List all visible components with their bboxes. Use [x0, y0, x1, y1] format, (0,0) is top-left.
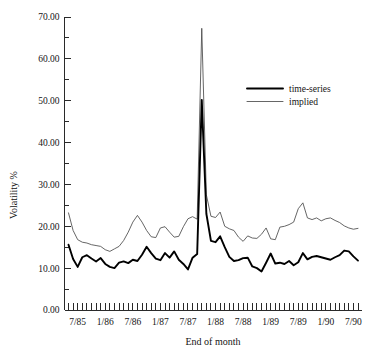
chart-canvas: 0.0010.0020.0030.0040.0050.0060.0070.00 … [0, 0, 376, 361]
y-axis-ticks [65, 17, 72, 310]
volatility-chart: 0.0010.0020.0030.0040.0050.0060.0070.00 … [0, 0, 376, 361]
y-tick-label: 30.00 [38, 180, 60, 190]
y-tick-label: 50.00 [38, 96, 60, 106]
y-tick-label: 20.00 [38, 222, 60, 232]
y-tick-label: 10.00 [38, 264, 60, 274]
x-axis-ticks [69, 303, 359, 310]
x-tick-label: 7/85 [69, 317, 86, 327]
x-tick-label: 7/87 [180, 317, 197, 327]
x-tick-label: 7/90 [345, 317, 362, 327]
x-tick-label: 7/89 [290, 317, 307, 327]
y-axis-tick-labels: 0.0010.0020.0030.0040.0050.0060.0070.00 [38, 12, 60, 315]
x-axis-tick-labels: 7/851/867/861/877/871/887/881/897/891/90… [69, 317, 362, 327]
x-tick-label: 1/87 [152, 317, 169, 327]
x-axis-title: End of month [186, 336, 241, 347]
legend-label-time-series: time-series [289, 84, 331, 94]
x-tick-label: 1/88 [207, 317, 224, 327]
x-tick-label: 1/86 [97, 317, 114, 327]
y-tick-label: 60.00 [38, 54, 60, 64]
series-line-implied [69, 28, 359, 251]
chart-legend: time-series implied [247, 84, 331, 107]
y-tick-label: 40.00 [38, 138, 60, 148]
legend-label-implied: implied [289, 97, 318, 107]
x-tick-label: 7/88 [235, 317, 252, 327]
y-tick-label: 70.00 [38, 12, 60, 22]
x-tick-label: 1/89 [262, 317, 279, 327]
x-tick-label: 1/90 [317, 317, 334, 327]
y-tick-label: 0.00 [43, 305, 60, 315]
series-line-time-series [69, 100, 359, 272]
x-tick-label: 7/86 [124, 317, 141, 327]
y-axis-title: Volatility % [8, 171, 19, 219]
